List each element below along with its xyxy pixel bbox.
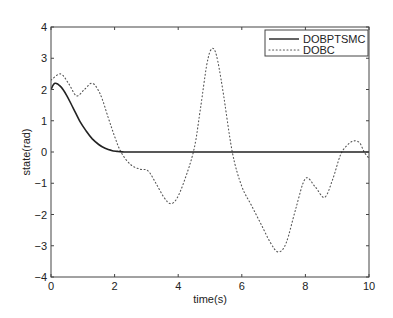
y-tick-label: 0 — [41, 146, 47, 158]
y-tick-label: 1 — [41, 115, 47, 127]
y-tick-label: 2 — [41, 84, 47, 96]
x-tick-label: 2 — [112, 280, 118, 292]
x-axis-tick-labels: 0246810 — [48, 280, 375, 292]
legend: DOBPTSMC DOBC — [265, 30, 368, 56]
y-tick-label: 4 — [41, 21, 47, 33]
x-axis-label: time(s) — [193, 293, 227, 305]
line-chart: 0246810 −4−3−2−101234 time(s) state(rad)… — [0, 0, 393, 318]
legend-label-dobc: DOBC — [303, 44, 335, 56]
series-dobptsmc-line — [51, 83, 369, 152]
y-axis-label: state(rad) — [20, 128, 32, 175]
x-tick-label: 8 — [302, 280, 308, 292]
y-tick-label: −4 — [34, 271, 47, 283]
y-tick-label: −1 — [34, 177, 47, 189]
y-tick-label: −2 — [34, 209, 47, 221]
series-layer — [51, 48, 369, 252]
y-tick-label: 3 — [41, 52, 47, 64]
x-tick-label: 6 — [239, 280, 245, 292]
series-dobc-line — [51, 48, 369, 252]
x-tick-label: 10 — [363, 280, 375, 292]
x-tick-label: 0 — [48, 280, 54, 292]
y-axis-tick-labels: −4−3−2−101234 — [34, 21, 47, 283]
x-tick-label: 4 — [175, 280, 181, 292]
y-tick-label: −3 — [34, 240, 47, 252]
